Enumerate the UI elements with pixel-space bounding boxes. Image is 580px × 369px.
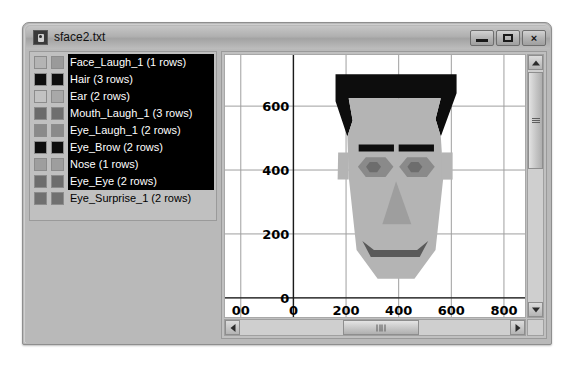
y-tick-label: 600	[262, 99, 289, 114]
minimize-icon	[476, 39, 488, 42]
legend-swatch-primary	[34, 141, 47, 154]
plot-shapes	[336, 74, 457, 278]
legend-swatch-secondary	[51, 73, 64, 86]
legend-swatch-primary	[34, 192, 47, 205]
legend-panel[interactable]: Face_Laugh_1 (1 rows)Hair (3 rows)Ear (2…	[29, 51, 217, 221]
close-icon: ×	[531, 33, 537, 44]
legend-item-label: Eye_Surprise_1 (2 rows)	[70, 192, 214, 205]
window-title: sface2.txt	[54, 29, 105, 46]
legend-swatch-primary	[34, 158, 47, 171]
x-tick-label: 200	[332, 303, 359, 317]
legend-item-label: Nose (1 rows)	[70, 158, 214, 171]
legend-item-label: Ear (2 rows)	[70, 90, 214, 103]
legend-item[interactable]: Nose (1 rows)	[32, 156, 214, 173]
legend-item[interactable]: Mouth_Laugh_1 (3 rows)	[32, 105, 214, 122]
close-button[interactable]: ×	[522, 30, 546, 46]
legend-item[interactable]: Eye_Eye (2 rows)	[32, 173, 214, 190]
maximize-icon	[503, 34, 513, 42]
x-tick-label: 0	[289, 303, 298, 317]
legend-item-label: Eye_Eye (2 rows)	[70, 175, 214, 188]
legend-item[interactable]: Face_Laugh_1 (1 rows)	[32, 54, 214, 71]
legend-item-label: Face_Laugh_1 (1 rows)	[70, 56, 214, 69]
title-bar[interactable]: sface2.txt ×	[26, 26, 550, 49]
legend-swatch-primary	[34, 73, 47, 86]
legend-item[interactable]: Eye_Surprise_1 (2 rows)	[32, 190, 214, 207]
file-icon	[33, 30, 48, 45]
y-tick-label: 400	[262, 163, 289, 178]
shape-Eye_Brow_right	[399, 144, 434, 151]
x-tick-label: 600	[438, 303, 465, 317]
legend-swatch-secondary	[51, 56, 64, 69]
legend-item-label: Eye_Brow (2 rows)	[70, 141, 214, 154]
scroll-up-arrow[interactable]	[528, 55, 543, 70]
application-window: sface2.txt × Face_Laugh_1 (1 rows)Hair (…	[22, 22, 552, 345]
legend-swatch-secondary	[51, 107, 64, 120]
y-tick-label: 200	[262, 227, 289, 242]
plot-canvas[interactable]: 0200400600000200400600800	[224, 54, 526, 318]
legend-swatch-secondary	[51, 141, 64, 154]
legend-swatch-primary	[34, 107, 47, 120]
scroll-down-arrow[interactable]	[528, 302, 543, 317]
vertical-scroll-thumb[interactable]	[528, 72, 543, 169]
legend-swatch-secondary	[51, 158, 64, 171]
legend-item[interactable]: Eye_Brow (2 rows)	[32, 139, 214, 156]
maximize-button[interactable]	[496, 30, 520, 46]
legend-swatch-primary	[34, 124, 47, 137]
shape-Eye_Brow_left	[359, 144, 394, 151]
legend-swatch-primary	[34, 56, 47, 69]
scroll-right-arrow[interactable]	[510, 320, 525, 335]
legend-list[interactable]: Face_Laugh_1 (1 rows)Hair (3 rows)Ear (2…	[32, 54, 214, 207]
legend-item[interactable]: Ear (2 rows)	[32, 88, 214, 105]
legend-item[interactable]: Hair (3 rows)	[32, 71, 214, 88]
legend-item-label: Mouth_Laugh_1 (3 rows)	[70, 107, 214, 120]
shape-Ear_right	[442, 152, 453, 179]
x-tick-label: 800	[490, 303, 517, 317]
legend-item-label: Hair (3 rows)	[70, 73, 214, 86]
horizontal-scrollbar[interactable]	[224, 319, 526, 336]
legend-swatch-secondary	[51, 124, 64, 137]
shape-Ear_left	[338, 152, 349, 179]
legend-swatch-secondary	[51, 192, 64, 205]
legend-item-label: Eye_Laugh_1 (2 rows)	[70, 124, 214, 137]
plot-frame: 0200400600000200400600800	[221, 51, 547, 339]
scrollbar-corner	[527, 319, 544, 336]
legend-swatch-secondary	[51, 175, 64, 188]
client-area: Face_Laugh_1 (1 rows)Hair (3 rows)Ear (2…	[26, 49, 550, 343]
scroll-left-arrow[interactable]	[225, 320, 240, 335]
legend-swatch-secondary	[51, 90, 64, 103]
horizontal-scroll-thumb[interactable]	[343, 320, 419, 335]
legend-swatch-primary	[34, 175, 47, 188]
face-plot: 0200400600000200400600800	[225, 55, 525, 317]
legend-item[interactable]: Eye_Laugh_1 (2 rows)	[32, 122, 214, 139]
x-tick-label: 400	[385, 303, 412, 317]
vertical-scrollbar[interactable]	[527, 54, 544, 318]
minimize-button[interactable]	[470, 30, 494, 46]
legend-swatch-primary	[34, 90, 47, 103]
x-tick-label: 00	[232, 303, 250, 317]
